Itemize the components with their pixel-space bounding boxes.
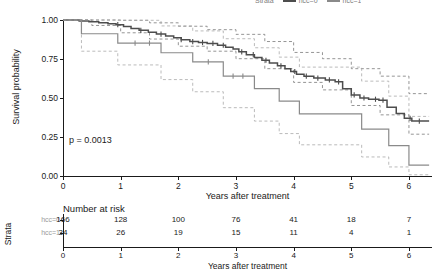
km-plot-panel: Survival probability 0.000.250.500.751.0… — [0, 10, 440, 202]
survival-curves — [0, 10, 440, 202]
risk-cell: 1 — [394, 228, 424, 238]
legend-swatch-icon-hcc1 — [327, 0, 340, 2]
risk-cell: 34 — [48, 228, 78, 238]
risk-x-tick-label: 4 — [282, 251, 306, 261]
risk-table-x-axis-line — [63, 247, 432, 248]
risk-cell: 76 — [221, 215, 251, 225]
risk-cell: 11 — [279, 228, 309, 238]
risk-x-tick-label: 6 — [397, 251, 421, 261]
risk-cell: 15 — [221, 228, 251, 238]
risk-table-title: Number at risk — [63, 203, 125, 214]
risk-x-tick-label: 5 — [339, 251, 363, 261]
legend-swatch-icon-hcc0 — [283, 0, 296, 2]
legend-item-hcc0: hcc=0 — [283, 0, 318, 5]
survival-curve — [63, 20, 429, 165]
risk-cell: 7 — [394, 215, 424, 225]
series-hcc1 — [63, 20, 429, 175]
risk-cell: 166 — [48, 215, 78, 225]
risk-x-tick-label: 2 — [166, 251, 190, 261]
risk-cell: 18 — [336, 215, 366, 225]
risk-x-tick-label: 0 — [51, 251, 75, 261]
confidence-band-ci-upper — [63, 20, 429, 94]
risk-table-x-axis-title: Years after treatment — [63, 261, 432, 271]
risk-cell: 19 — [163, 228, 193, 238]
risk-cell: 100 — [163, 215, 193, 225]
strata-axis-title: Strata — [3, 214, 13, 254]
risk-cell: 41 — [279, 215, 309, 225]
legend-title-label: Strata — [255, 0, 274, 5]
risk-x-tick-label: 3 — [224, 251, 248, 261]
risk-cell: 128 — [106, 215, 136, 225]
legend-title: Strata — [255, 0, 274, 5]
risk-cell: 4 — [336, 228, 366, 238]
legend: Strata hcc=0 hcc=1 — [255, 0, 361, 6]
legend-label-hcc0: hcc=0 — [299, 0, 318, 5]
legend-label-hcc1: hcc=1 — [343, 0, 362, 5]
number-at-risk-table: Number at risk Strata hcc=01661281007641… — [0, 202, 440, 277]
legend-item-hcc1: hcc=1 — [327, 0, 362, 5]
risk-cell: 26 — [106, 228, 136, 238]
risk-x-tick-label: 1 — [109, 251, 133, 261]
survival-plot-figure: Strata hcc=0 hcc=1 Survival probability … — [0, 0, 440, 277]
